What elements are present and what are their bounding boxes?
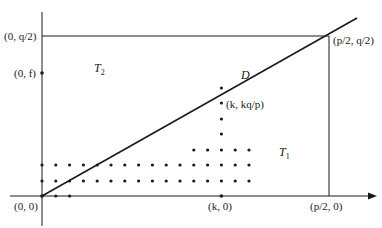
label-origin: (0, 0) (14, 200, 38, 212)
point-0-f (40, 71, 44, 75)
region-t1: T1 (279, 146, 290, 163)
label-k-axis: (k, 0) (208, 200, 232, 212)
region-t2-sub: 2 (101, 68, 105, 77)
label-y-f: (0, f) (14, 67, 36, 79)
label-p-half-axis: (p/2, 0) (310, 200, 342, 212)
label-corner: (p/2, q/2) (333, 34, 374, 46)
lattice-points (40, 86, 250, 197)
region-t1-letter: T (279, 145, 286, 159)
label-line-d: D (241, 69, 250, 81)
label-k-point: (k, kq/p) (226, 98, 264, 110)
line-d (42, 18, 357, 196)
x-axis-arrow-icon (368, 193, 377, 200)
diagram-canvas (0, 0, 382, 228)
region-t1-sub: 1 (286, 152, 290, 161)
label-y-q-half: (0, q/2) (4, 30, 36, 42)
region-t2: T2 (94, 62, 105, 79)
region-t2-letter: T (94, 61, 101, 75)
